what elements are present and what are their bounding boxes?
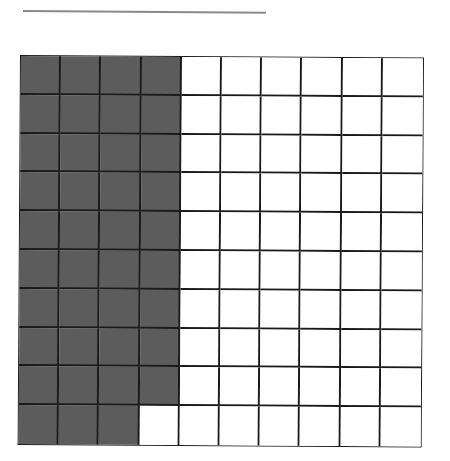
empty-cell xyxy=(340,368,380,407)
shaded-cell xyxy=(101,56,141,95)
shaded-cell xyxy=(100,173,140,212)
shaded-cell xyxy=(139,367,179,406)
shaded-cell xyxy=(99,367,139,406)
shaded-cell xyxy=(99,406,139,445)
empty-cell xyxy=(262,96,302,135)
empty-cell xyxy=(381,252,421,291)
empty-cell xyxy=(342,58,382,97)
shaded-cell xyxy=(21,56,61,95)
empty-cell xyxy=(222,96,262,135)
shaded-cell xyxy=(141,57,181,96)
answer-blank-line xyxy=(23,10,266,14)
shaded-cell xyxy=(20,172,60,211)
shaded-cell xyxy=(59,405,99,444)
empty-cell xyxy=(221,174,261,213)
empty-cell xyxy=(300,329,340,368)
shaded-cell xyxy=(100,212,140,251)
empty-cell xyxy=(382,136,422,175)
empty-cell xyxy=(302,58,342,97)
empty-cell xyxy=(180,367,220,406)
shaded-cell xyxy=(20,211,60,250)
empty-cell xyxy=(341,330,381,369)
shaded-cell xyxy=(19,405,59,444)
empty-cell xyxy=(220,290,260,329)
empty-cell xyxy=(300,368,340,407)
shaded-cell xyxy=(101,95,141,134)
empty-cell xyxy=(261,290,301,329)
empty-cell xyxy=(380,407,420,446)
empty-cell xyxy=(342,174,382,213)
shaded-cell xyxy=(20,250,60,289)
empty-cell xyxy=(301,213,341,252)
empty-cell xyxy=(341,252,381,291)
empty-cell xyxy=(261,135,301,174)
shaded-cell xyxy=(140,290,180,329)
shaded-cell xyxy=(141,96,181,135)
empty-cell xyxy=(181,96,221,135)
shaded-cell xyxy=(60,250,100,289)
shaded-cell xyxy=(101,134,141,173)
shaded-cell xyxy=(20,134,60,173)
empty-cell xyxy=(301,291,341,330)
empty-cell xyxy=(261,251,301,290)
empty-cell xyxy=(340,407,380,446)
empty-cell xyxy=(383,58,423,97)
empty-cell xyxy=(382,175,422,214)
empty-cell xyxy=(260,407,300,446)
shaded-cell xyxy=(61,56,101,95)
empty-cell xyxy=(261,174,301,213)
empty-cell xyxy=(381,369,421,408)
shaded-cell xyxy=(140,328,180,367)
empty-cell xyxy=(180,251,220,290)
empty-cell xyxy=(260,329,300,368)
empty-cell xyxy=(220,329,260,368)
empty-cell xyxy=(302,135,342,174)
empty-cell xyxy=(221,212,261,251)
empty-cell xyxy=(221,251,261,290)
empty-cell xyxy=(181,135,221,174)
shaded-cell xyxy=(60,134,100,173)
empty-cell xyxy=(260,368,300,407)
shaded-cell xyxy=(60,173,100,212)
shaded-cell xyxy=(19,366,59,405)
shaded-cell xyxy=(59,328,99,367)
shaded-cell xyxy=(99,328,139,367)
empty-cell xyxy=(221,135,261,174)
shaded-cell xyxy=(141,173,181,212)
shaded-cell xyxy=(100,289,140,328)
shaded-cell xyxy=(60,211,100,250)
shaded-cell xyxy=(100,250,140,289)
empty-cell xyxy=(301,252,341,291)
shaded-cell xyxy=(59,367,99,406)
empty-cell xyxy=(139,406,179,445)
empty-cell xyxy=(261,213,301,252)
shaded-cell xyxy=(61,95,101,134)
empty-cell xyxy=(382,97,422,136)
empty-cell xyxy=(262,57,302,96)
empty-cell xyxy=(341,291,381,330)
empty-cell xyxy=(341,213,381,252)
shaded-cell xyxy=(140,212,180,251)
empty-cell xyxy=(222,57,262,96)
empty-cell xyxy=(381,330,421,369)
empty-cell xyxy=(342,136,382,175)
empty-cell xyxy=(342,97,382,136)
empty-cell xyxy=(181,212,221,251)
hundred-square-grid xyxy=(18,55,424,447)
shaded-cell xyxy=(60,289,100,328)
shaded-cell xyxy=(140,251,180,290)
empty-cell xyxy=(220,406,260,445)
shaded-cell xyxy=(141,134,181,173)
empty-cell xyxy=(381,291,421,330)
shaded-cell xyxy=(21,95,61,134)
empty-cell xyxy=(382,213,422,252)
shaded-cell xyxy=(19,328,59,367)
shaded-cell xyxy=(19,289,59,328)
empty-cell xyxy=(300,407,340,446)
empty-cell xyxy=(180,329,220,368)
empty-cell xyxy=(220,368,260,407)
empty-cell xyxy=(302,97,342,136)
empty-cell xyxy=(181,173,221,212)
empty-cell xyxy=(182,57,222,96)
empty-cell xyxy=(301,174,341,213)
